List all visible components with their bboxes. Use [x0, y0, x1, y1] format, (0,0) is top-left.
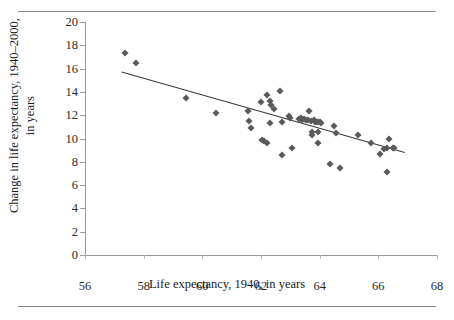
y-axis-tick-label: 16: [66, 62, 79, 75]
bottom-horizontal-rule: [18, 306, 436, 307]
plot-area: 0246810121416182056586062646668: [85, 22, 437, 255]
y-axis-tick-label: 10: [66, 132, 79, 145]
y-axis-tick-label: 18: [66, 39, 79, 52]
x-axis-tick: [437, 255, 438, 259]
y-axis-tick: [80, 22, 85, 23]
top-horizontal-rule: [18, 11, 436, 12]
x-axis-tick: [378, 255, 379, 259]
y-axis-tick: [80, 69, 85, 70]
y-axis-tick: [80, 115, 85, 116]
y-axis-tick: [80, 232, 85, 233]
y-axis-tick: [80, 45, 85, 46]
x-axis-tick: [320, 255, 321, 259]
x-axis-tick: [144, 255, 145, 259]
y-axis-tick-label: 6: [72, 179, 78, 192]
figure-container: 0246810121416182056586062646668 Change i…: [0, 0, 454, 320]
y-axis-tick: [80, 139, 85, 140]
x-axis-tick: [261, 255, 262, 259]
y-axis-tick-label: 14: [66, 86, 79, 99]
x-axis-title: Life expectancy, 1940, in years: [0, 277, 454, 292]
y-axis-tick-label: 12: [66, 109, 79, 122]
y-axis-tick: [80, 162, 85, 163]
y-axis-tick-label: 4: [72, 202, 78, 215]
y-axis-tick: [80, 92, 85, 93]
y-axis-tick-label: 0: [72, 249, 78, 262]
y-axis-title-line2: in years: [23, 96, 37, 135]
x-axis-tick: [202, 255, 203, 259]
y-axis-title-wrap: Change in life expectancy, 1940–2000, in…: [0, 0, 60, 260]
y-axis-tick-label: 2: [72, 225, 78, 238]
x-axis-tick: [85, 255, 86, 259]
y-axis-title: Change in life expectancy, 1940–2000, in…: [7, 0, 38, 241]
y-axis-tick: [80, 185, 85, 186]
y-axis-title-line1: Change in life expectancy, 1940–2000,: [7, 18, 21, 213]
y-axis-tick-label: 8: [72, 156, 78, 169]
y-axis-tick: [80, 208, 85, 209]
y-axis-tick-label: 20: [66, 16, 79, 29]
